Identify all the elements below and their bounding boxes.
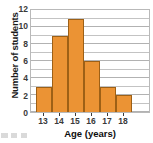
- plot-area: [30, 9, 150, 113]
- x-axis-tick-label: 17: [102, 116, 111, 126]
- y-axis-tick-label: 0: [23, 108, 28, 118]
- y-axis-tick-label: 6: [23, 56, 28, 66]
- bar-series: [31, 10, 149, 112]
- histogram-chart: Number of students 024681012 13141516171…: [0, 0, 153, 143]
- x-axis-tick-label: 13: [38, 116, 47, 126]
- x-axis-tick-label: 14: [54, 116, 63, 126]
- x-axis-title: Age (years): [30, 128, 150, 139]
- y-axis-tick-labels: 024681012: [14, 9, 28, 113]
- bar: [68, 19, 84, 113]
- bar: [116, 95, 132, 112]
- bar: [100, 87, 116, 113]
- y-axis-tick-label: 8: [23, 39, 28, 49]
- bar: [52, 36, 68, 113]
- y-axis-tick-label: 4: [23, 73, 28, 83]
- y-axis-tick-label: 10: [19, 21, 28, 31]
- x-axis-tick-labels: 131415161718: [30, 116, 150, 128]
- cropped-text-artifact: [1, 133, 35, 138]
- bar: [84, 61, 100, 112]
- bar: [36, 87, 52, 113]
- y-axis-tick-label: 12: [19, 4, 28, 14]
- x-axis-tick-label: 16: [86, 116, 95, 126]
- x-axis-tick-label: 15: [70, 116, 79, 126]
- x-axis-tick-label: 18: [118, 116, 127, 126]
- y-axis-tick-label: 2: [23, 91, 28, 101]
